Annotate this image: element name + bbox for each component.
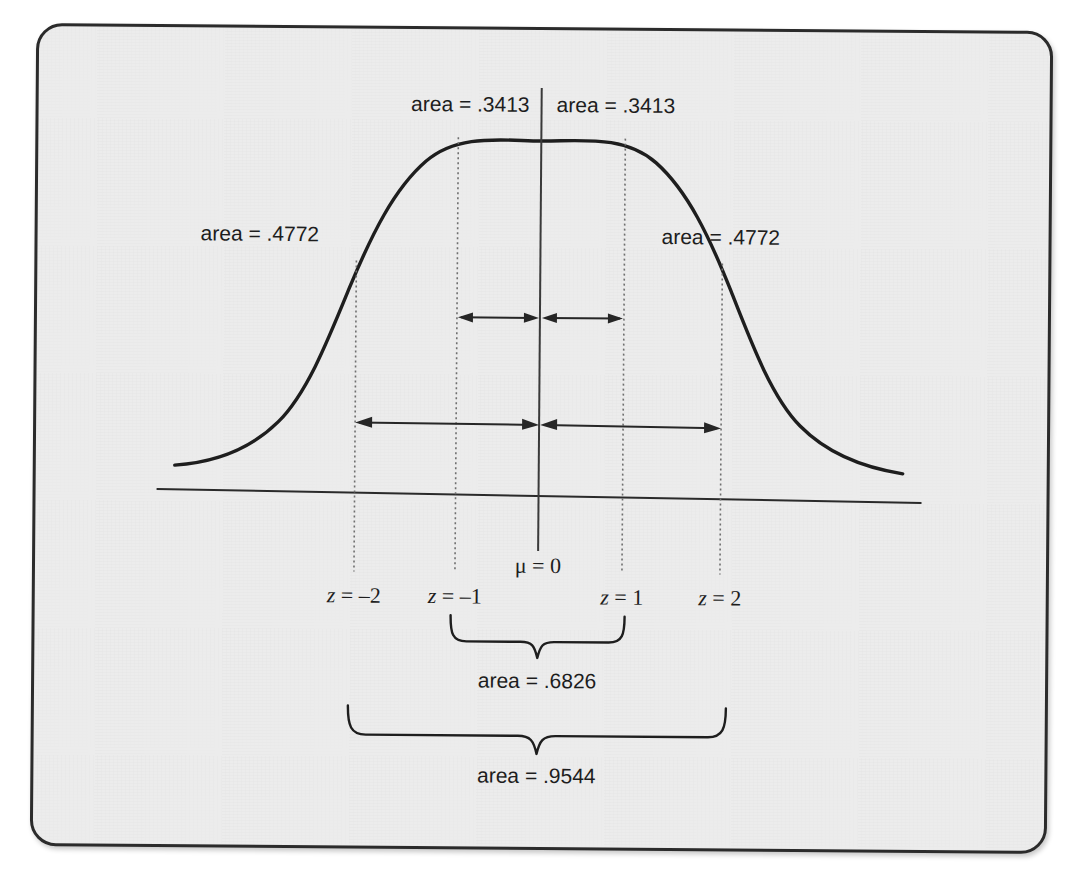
brace-outer-95 [348, 705, 726, 755]
dotted-line-z-plus-2 [720, 263, 722, 574]
label-z-minus-2: z = –2 [326, 582, 381, 607]
dotted-line-z-minus-2 [354, 261, 356, 572]
figure-page: area = .3413 area = .3413 area = .4772 a… [0, 0, 1089, 875]
arrow-span-mean-to-z-plus-2 [540, 419, 721, 433]
label-area-9544: area = .9544 [477, 763, 596, 787]
arrow-span-z-minus-1-to-mean [458, 312, 539, 323]
brace-inner-68 [450, 615, 624, 658]
arrow-span-z-minus-2-to-mean [355, 417, 539, 430]
arrow-span-mean-to-z-plus-1 [542, 313, 623, 324]
normal-distribution-figure: area = .3413 area = .3413 area = .4772 a… [0, 0, 1089, 875]
mean-center-line [538, 88, 542, 551]
label-z-minus-1: z = –1 [427, 583, 482, 608]
dotted-line-z-plus-1 [622, 139, 625, 574]
label-z-plus-1: z = 1 [599, 584, 643, 609]
label-z-plus-2: z = 2 [697, 585, 741, 610]
label-area-6826: area = .6826 [478, 668, 597, 692]
dotted-line-z-minus-1 [455, 137, 458, 572]
label-area-3413-right: area = .3413 [557, 93, 676, 117]
label-area-4772-right: area = .4772 [661, 225, 780, 249]
label-area-4772-left: area = .4772 [201, 221, 320, 245]
label-mu-zero: μ = 0 [515, 553, 561, 578]
label-area-3413-left: area = .3413 [411, 92, 530, 116]
